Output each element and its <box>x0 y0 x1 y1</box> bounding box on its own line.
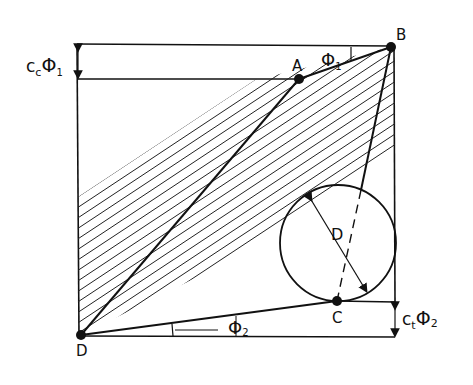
point-D <box>76 330 86 340</box>
hatch-band <box>40 0 460 380</box>
diameter-label: D <box>331 225 343 244</box>
top-offset-label: ccΦ1 <box>26 54 63 79</box>
label-A: A <box>292 57 303 75</box>
strut-A-B <box>299 47 391 79</box>
top-edge <box>77 44 393 46</box>
label-C: C <box>332 309 342 327</box>
strut-tie-diagram: D A B C D ccΦ1 ctΦ2 Φ1 Φ2 <box>0 0 473 385</box>
dashed-line-to-C <box>337 190 361 301</box>
point-B <box>386 42 396 52</box>
angle-label-phi1: Φ1 <box>321 49 342 72</box>
strut-D-A <box>81 79 299 335</box>
bottom-offset-label: ctΦ2 <box>402 307 438 332</box>
right-edge <box>394 46 395 302</box>
point-C <box>332 296 342 306</box>
left-edge <box>77 44 79 336</box>
angle-arc-phi2 <box>172 324 173 336</box>
label-D: D <box>76 342 88 360</box>
point-A <box>294 74 304 84</box>
label-B: B <box>396 26 406 44</box>
angle-label-phi2: Φ2 <box>228 317 249 338</box>
frame <box>77 44 395 337</box>
struts <box>81 47 391 335</box>
